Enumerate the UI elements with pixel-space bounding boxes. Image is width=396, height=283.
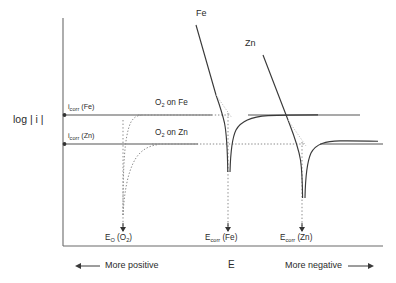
zn-polarisation-curve [263, 55, 378, 198]
icorr-zn-label: icorr (Zn) [68, 131, 94, 140]
fe-polarisation-curve [196, 25, 318, 172]
eo-o2-paren-subscript: 2 [126, 237, 129, 243]
ecorr-fe-paren: (Fe) [220, 233, 237, 242]
o2-on-fe-subscript: 2 [161, 102, 164, 108]
evans-diagram-figure: log | i | Fe Zn O2 on Fe O2 on Zn icorr … [0, 0, 396, 283]
more-positive-arrow [75, 263, 100, 269]
eo-o2-subscript: O [110, 237, 114, 243]
y-axis-label: log | i | [13, 113, 44, 125]
o2-on-fe-label: O2 on Fe [155, 98, 188, 107]
icorr-fe-paren: (Fe) [79, 102, 94, 111]
ecorr-zn-label: Ecorr (Zn) [280, 233, 312, 242]
icorr-fe-subscript: corr [70, 106, 80, 112]
more-positive-label: More positive [105, 260, 159, 270]
evans-diagram-canvas [0, 0, 396, 283]
zn-curve-label: Zn [245, 38, 256, 48]
ecorr-fe-label: Ecorr (Fe) [205, 233, 237, 242]
more-negative-label: More negative [285, 260, 342, 270]
x-axis-label: E [228, 259, 235, 270]
eo-o2-label: EO (O2) [105, 233, 132, 242]
o2-on-zn-subscript: 2 [161, 132, 164, 138]
more-negative-arrow [348, 263, 374, 269]
fe-curve-label: Fe [196, 8, 207, 18]
o2-on-fe-rest: on Fe [165, 98, 188, 107]
icorr-zn-subscript: corr [70, 135, 80, 141]
o2-on-zn-cathodic-curve [123, 145, 158, 215]
ecorr-fe-subscript: corr [210, 237, 220, 243]
eo-o2-paren: (O [115, 233, 126, 242]
o2-on-zn-rest: on Zn [165, 128, 188, 137]
ecorr-zn-paren: (Zn) [295, 233, 312, 242]
icorr-zn-paren: (Zn) [79, 131, 94, 140]
icorr-fe-label: icorr (Fe) [68, 102, 94, 111]
ecorr-zn-subscript: corr [285, 237, 295, 243]
axes-group [63, 18, 383, 246]
o2-on-fe-cathodic-curve [123, 115, 141, 215]
eo-o2-paren-end: ) [129, 233, 132, 242]
o2-on-zn-label: O2 on Zn [155, 128, 188, 137]
